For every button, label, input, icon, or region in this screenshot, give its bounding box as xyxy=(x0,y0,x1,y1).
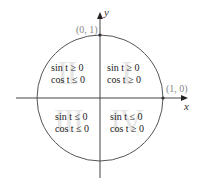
quadrant-iii-cos: cos t ≤ 0 xyxy=(55,123,89,135)
quadrant-i-cos: cos t ≥ 0 xyxy=(107,74,141,86)
quadrant-iv-cos: cos t ≥ 0 xyxy=(110,123,144,135)
quadrant-iv-text: sin t ≤ 0 cos t ≥ 0 xyxy=(110,111,144,135)
quadrant-iii-sin: sin t ≤ 0 xyxy=(55,111,89,123)
quadrant-i-sin: sin t ≥ 0 xyxy=(107,62,141,74)
quadrant-iii-text: sin t ≤ 0 cos t ≤ 0 xyxy=(55,111,89,135)
point-label-1-0: (1, 0) xyxy=(166,83,188,94)
unit-circle-diagram xyxy=(0,0,199,189)
quadrant-ii-sin: sin t ≥ 0 xyxy=(51,62,85,74)
y-axis-label: y xyxy=(104,6,109,18)
quadrant-ii-cos: cos t ≤ 0 xyxy=(51,74,85,86)
point-0-1 xyxy=(98,33,101,36)
point-1-0 xyxy=(161,96,164,99)
quadrant-i-text: sin t ≥ 0 cos t ≥ 0 xyxy=(107,62,141,86)
y-axis-arrow-icon xyxy=(97,12,103,19)
quadrant-ii-text: sin t ≥ 0 cos t ≤ 0 xyxy=(51,62,85,86)
quadrant-iv-sin: sin t ≤ 0 xyxy=(110,111,144,123)
point-label-0-1: (0, 1) xyxy=(76,24,98,35)
x-axis-label: x xyxy=(184,100,189,112)
